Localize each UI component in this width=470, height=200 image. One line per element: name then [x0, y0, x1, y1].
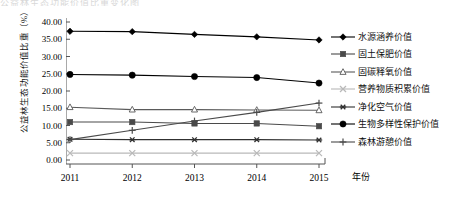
- cross-x-marker: [330, 82, 356, 96]
- legend-item-label: 森林游憩价值: [356, 137, 412, 147]
- legend-item-label: 固碳释氧价值: [356, 67, 412, 77]
- y-axis-tick-labels: 0.005.0010.0015.0020.0025.0030.0035.0040…: [22, 18, 62, 168]
- y-tick-label: 5.00: [22, 138, 62, 147]
- data-point-asterisk-marker: [129, 137, 135, 142]
- data-point-plus-marker: [340, 138, 347, 145]
- legend-item-label: 净化空气价值: [356, 102, 412, 112]
- series-line: [67, 150, 322, 156]
- legend-item-label: 生物多样性保护价值: [356, 119, 439, 129]
- data-point-circle-marker: [191, 73, 197, 79]
- legend-item[interactable]: 固碳释氧价值: [330, 63, 470, 81]
- cropped-title-sliver: 公益林生态功能价值比重变化图: [0, 0, 470, 6]
- x-tick-label: 2014: [231, 172, 283, 184]
- circle-marker: [330, 117, 356, 131]
- data-point-plus-marker: [129, 127, 136, 134]
- data-point-circle-marker: [254, 74, 260, 80]
- diamond-marker: [330, 30, 356, 44]
- y-tick-label: 10.00: [22, 121, 62, 130]
- data-point-circle-marker: [340, 121, 346, 127]
- series-line: [67, 137, 322, 142]
- legend-item[interactable]: 水源涵养价值: [330, 28, 470, 46]
- asterisk-marker: [330, 100, 356, 114]
- data-point-circle-marker: [129, 72, 135, 78]
- y-tick-label: 35.00: [22, 35, 62, 44]
- plus-marker: [330, 135, 356, 149]
- y-tick-label: 30.00: [22, 52, 62, 61]
- legend-item[interactable]: 营养物质积累价值: [330, 81, 470, 99]
- data-point-diamond-marker: [191, 31, 197, 37]
- data-point-asterisk-marker: [254, 137, 260, 142]
- legend-item[interactable]: 固土保肥价值: [330, 46, 470, 64]
- x-tick-label: 2012: [106, 172, 158, 184]
- legend-item[interactable]: 净化空气价值: [330, 98, 470, 116]
- chart-legend: 水源涵养价值固土保肥价值固碳释氧价值营养物质积累价值净化空气价值生物多样性保护价…: [330, 28, 470, 151]
- data-point-square-marker: [254, 121, 259, 126]
- data-point-square-marker: [340, 52, 345, 57]
- data-point-asterisk-marker: [191, 137, 197, 142]
- plot-area: [66, 18, 326, 168]
- y-tick-label: 40.00: [22, 18, 62, 27]
- data-point-circle-marker: [67, 71, 73, 77]
- legend-item[interactable]: 森林游憩价值: [330, 133, 470, 151]
- series-line: [67, 28, 322, 43]
- plot-svg: [66, 18, 326, 168]
- legend-item[interactable]: 生物多样性保护价值: [330, 116, 470, 134]
- data-point-asterisk-marker: [316, 138, 322, 143]
- legend-item-label: 营养物质积累价值: [356, 84, 430, 94]
- data-point-diamond-marker: [254, 34, 260, 40]
- data-point-asterisk-marker: [340, 104, 346, 109]
- legend-item-label: 固土保肥价值: [356, 49, 412, 59]
- chart-figure: 公益林生态功能价值比重变化图 公益林生态功能价值比重（%） 0.005.0010…: [0, 0, 470, 200]
- data-point-diamond-marker: [316, 37, 322, 43]
- x-tick-label: 2013: [169, 172, 221, 184]
- data-point-diamond-marker: [67, 28, 73, 34]
- data-point-diamond-marker: [340, 34, 346, 40]
- y-tick-label: 20.00: [22, 87, 62, 96]
- data-point-square-marker: [316, 123, 321, 128]
- triangle-marker: [330, 65, 356, 79]
- x-axis-title: 年份: [352, 170, 370, 183]
- y-tick-label: 15.00: [22, 104, 62, 113]
- series-line: [67, 71, 322, 86]
- axis-lines: [66, 18, 325, 168]
- data-point-square-marker: [130, 119, 135, 124]
- data-point-square-marker: [67, 119, 72, 124]
- legend-item-label: 水源涵养价值: [356, 32, 412, 42]
- x-axis-tick-labels: 20112012201320142015: [66, 172, 326, 188]
- y-tick-label: 0.00: [22, 156, 62, 165]
- square-marker: [330, 47, 356, 61]
- data-point-plus-marker: [316, 100, 323, 107]
- y-tick-label: 25.00: [22, 69, 62, 78]
- x-tick-label: 2015: [293, 172, 345, 184]
- data-point-circle-marker: [316, 80, 322, 86]
- x-tick-label: 2011: [44, 172, 96, 184]
- data-point-diamond-marker: [129, 28, 135, 34]
